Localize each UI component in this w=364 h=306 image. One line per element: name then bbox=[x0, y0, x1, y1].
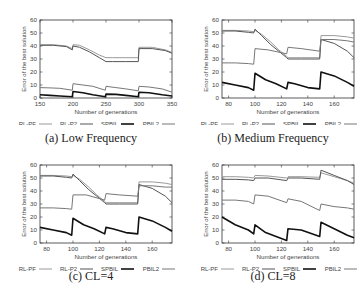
x-tick-label: 100 bbox=[250, 245, 261, 252]
x-axis-label: Number of generations bbox=[257, 108, 320, 115]
legend-label-pbil2: PBIL2 bbox=[325, 121, 342, 125]
y-tick-label: 10 bbox=[212, 81, 219, 88]
y-tick-label: 10 bbox=[30, 81, 37, 88]
series-pbil2 bbox=[40, 84, 172, 93]
legend-label-pbil2: PBIL2 bbox=[143, 121, 160, 125]
x-tick-label: 120 bbox=[94, 245, 105, 252]
y-tick-label: 0 bbox=[216, 94, 220, 101]
line-chart-a: 0102030405060150200250300350Number of ge… bbox=[0, 0, 182, 125]
x-tick-label: 140 bbox=[303, 100, 314, 107]
x-tick-label: 140 bbox=[121, 245, 132, 252]
line-chart-c: 010203040506080100120140160Number of gen… bbox=[0, 153, 182, 278]
y-tick-label: 20 bbox=[212, 68, 219, 75]
x-tick-label: 150 bbox=[35, 100, 46, 107]
line-chart-d: 010203040506080100120140160Number of gen… bbox=[182, 153, 364, 278]
y-axis-label: Error of the best solution bbox=[21, 26, 27, 91]
x-tick-label: 120 bbox=[276, 245, 287, 252]
legend-label-rl-pf: RL-PF bbox=[19, 121, 37, 125]
y-tick-label: 30 bbox=[212, 55, 219, 62]
y-tick-label: 40 bbox=[212, 42, 219, 49]
x-tick-label: 350 bbox=[167, 100, 178, 107]
x-tick-label: 160 bbox=[329, 100, 340, 107]
x-tick-label: 300 bbox=[134, 100, 145, 107]
legend-label-rl-p2: RL-P2 bbox=[60, 121, 78, 125]
x-tick-label: 140 bbox=[303, 245, 314, 252]
x-tick-label: 80 bbox=[225, 100, 232, 107]
y-tick-label: 50 bbox=[30, 29, 37, 36]
series-spbil bbox=[40, 217, 172, 235]
series-spbil bbox=[222, 217, 354, 240]
caption-c: (c) CL=4 bbox=[0, 269, 182, 284]
x-tick-label: 80 bbox=[225, 245, 232, 252]
x-axis-label: Number of generations bbox=[75, 108, 138, 115]
caption-d: (d) CL=8 bbox=[182, 269, 364, 284]
y-tick-label: 60 bbox=[212, 161, 219, 168]
x-tick-label: 120 bbox=[276, 100, 287, 107]
line-chart-b: 010203040506080100120140160Number of gen… bbox=[182, 0, 364, 125]
series-spbil bbox=[40, 92, 172, 97]
y-tick-label: 40 bbox=[30, 187, 37, 194]
y-tick-label: 50 bbox=[212, 29, 219, 36]
x-tick-label: 160 bbox=[329, 245, 340, 252]
y-tick-label: 50 bbox=[30, 174, 37, 181]
series-rl-pf bbox=[222, 30, 354, 57]
x-tick-label: 100 bbox=[250, 100, 261, 107]
legend-label-rl-pf: RL-PF bbox=[201, 121, 219, 125]
y-tick-label: 50 bbox=[212, 174, 219, 181]
x-tick-label: 250 bbox=[101, 100, 112, 107]
x-tick-label: 160 bbox=[147, 245, 158, 252]
y-tick-label: 0 bbox=[216, 239, 220, 246]
panel-c: 010203040506080100120140160Number of gen… bbox=[0, 153, 182, 306]
y-axis-label: Error of the best solution bbox=[203, 171, 209, 236]
y-axis-label: Error of the best solution bbox=[21, 171, 27, 236]
panel-d: 010203040506080100120140160Number of gen… bbox=[182, 153, 364, 306]
y-tick-label: 60 bbox=[30, 161, 37, 168]
legend-label-rl-p2: RL-P2 bbox=[242, 121, 260, 125]
y-tick-label: 40 bbox=[212, 187, 219, 194]
legend-label-spbil: SPBIL bbox=[101, 121, 119, 125]
x-tick-label: 80 bbox=[43, 245, 50, 252]
x-axis-label: Number of generations bbox=[75, 253, 138, 260]
series-rl-pf bbox=[40, 45, 172, 58]
y-axis-label: Error of the best solution bbox=[203, 26, 209, 91]
y-tick-label: 60 bbox=[212, 16, 219, 23]
y-tick-label: 20 bbox=[30, 213, 37, 220]
x-tick-label: 200 bbox=[68, 100, 79, 107]
y-tick-label: 20 bbox=[30, 68, 37, 75]
caption-b: (b) Medium Frequency bbox=[182, 131, 364, 146]
x-axis-label: Number of generations bbox=[257, 253, 320, 260]
x-tick-label: 100 bbox=[68, 245, 79, 252]
series-pbil2 bbox=[40, 186, 172, 209]
y-tick-label: 20 bbox=[212, 213, 219, 220]
series-rl-p2 bbox=[40, 174, 172, 204]
y-tick-label: 40 bbox=[30, 42, 37, 49]
caption-a: (a) Low Frequency bbox=[0, 131, 182, 146]
series-rl-pf bbox=[40, 175, 172, 202]
y-tick-label: 10 bbox=[212, 226, 219, 233]
y-tick-label: 30 bbox=[30, 55, 37, 62]
y-tick-label: 30 bbox=[212, 200, 219, 207]
series-spbil bbox=[222, 72, 354, 90]
y-tick-label: 0 bbox=[34, 239, 38, 246]
panel-b: 010203040506080100120140160Number of gen… bbox=[182, 0, 364, 153]
y-tick-label: 10 bbox=[30, 226, 37, 233]
series-rl-p2 bbox=[222, 29, 354, 59]
panel-a: 0102030405060150200250300350Number of ge… bbox=[0, 0, 182, 153]
y-tick-label: 60 bbox=[30, 16, 37, 23]
legend-label-spbil: SPBIL bbox=[283, 121, 301, 125]
series-pbil2 bbox=[222, 195, 354, 211]
y-tick-label: 30 bbox=[30, 200, 37, 207]
